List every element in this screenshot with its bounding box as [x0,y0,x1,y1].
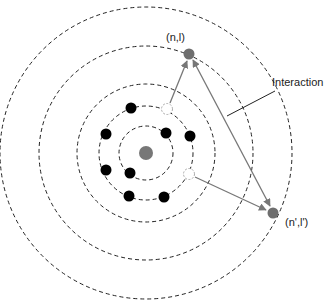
electron [161,128,172,139]
label-interaction: Interaction [272,76,323,88]
electron [101,165,112,176]
label-lower-state: (n',l') [285,216,308,228]
electron [126,103,137,114]
excited-electron-lower [268,208,279,219]
interaction-pointer [227,91,275,116]
arrow-excitation-up [170,61,187,103]
arrow-excitation-down [195,177,266,210]
electron [159,192,170,203]
holes [162,104,195,180]
label-upper-state: (n,l) [166,31,185,43]
electron [124,191,135,202]
hole [184,169,195,180]
nucleus [139,146,153,160]
hole [162,104,173,115]
arrow-interaction [193,60,270,206]
atom-diagram: (n,l) (n',l') Interaction [0,0,329,304]
electron [125,168,136,179]
electron [101,129,112,140]
electron [185,131,196,142]
excited-electron-upper [184,49,195,60]
